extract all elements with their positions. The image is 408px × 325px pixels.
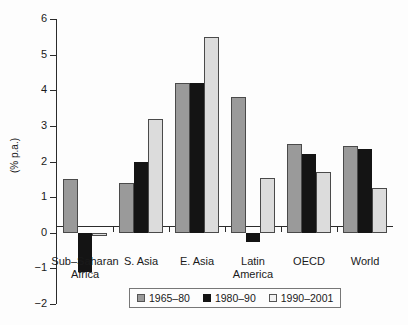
legend-swatch-black-icon	[203, 294, 211, 302]
x-tick	[281, 226, 282, 232]
bar-chart: (% p.a.) 6543210−1−2 Sub–SaharanAfricaS.…	[0, 0, 408, 325]
legend-swatch-white-icon	[269, 294, 277, 302]
bar-5-2	[372, 188, 387, 233]
legend-label-1: 1980–90	[215, 292, 256, 304]
y-tick-label: 3	[41, 119, 47, 132]
legend-label-2: 1990–2001	[281, 292, 334, 304]
bar-3-1	[246, 233, 261, 242]
x-tick	[113, 226, 114, 232]
x-tick	[225, 226, 226, 232]
bar-4-2	[316, 172, 331, 233]
category-label-line: America	[211, 268, 295, 281]
y-tick: −2	[50, 304, 56, 305]
bar-1-2	[148, 119, 163, 233]
bar-3-0	[231, 97, 246, 232]
y-tick: 0	[50, 233, 56, 234]
legend-swatch-gray-icon	[137, 294, 145, 302]
y-tick-label: 1	[41, 190, 47, 203]
bar-2-1	[190, 83, 205, 233]
y-axis-title: (% p.a.)	[9, 111, 20, 201]
y-tick-label: −2	[34, 297, 47, 310]
bar-4-1	[302, 154, 317, 232]
y-tick: 2	[50, 162, 56, 163]
bar-2-0	[175, 83, 190, 233]
bar-1-0	[119, 183, 134, 233]
bar-0-2	[92, 233, 107, 237]
legend-item-1[interactable]: 1980–90	[203, 292, 256, 304]
y-tick-label: 4	[41, 83, 47, 96]
category-label-line: World	[323, 255, 407, 268]
chart-legend: 1965–80 1980–90 1990–2001	[129, 288, 341, 308]
y-tick: 3	[50, 126, 56, 127]
y-tick-label: 2	[41, 155, 47, 168]
bar-2-2	[204, 37, 219, 233]
y-tick-label: 0	[41, 226, 47, 239]
bar-4-0	[287, 144, 302, 233]
y-tick: 4	[50, 90, 56, 91]
y-tick: 5	[50, 55, 56, 56]
bar-0-0	[63, 179, 78, 232]
bar-3-2	[260, 178, 275, 233]
x-tick	[169, 226, 170, 232]
legend-item-0[interactable]: 1965–80	[137, 292, 190, 304]
legend-item-2[interactable]: 1990–2001	[269, 292, 334, 304]
y-tick-label: 5	[41, 48, 47, 61]
bar-1-1	[134, 162, 149, 233]
category-label-5: World	[323, 255, 407, 268]
bar-5-1	[358, 149, 373, 233]
y-tick-label: 6	[41, 12, 47, 25]
category-label-line: Africa	[43, 268, 127, 281]
y-tick: 6	[50, 19, 56, 20]
x-tick	[337, 226, 338, 232]
y-tick: 1	[50, 197, 56, 198]
legend-label-0: 1965–80	[149, 292, 190, 304]
bar-5-0	[343, 146, 358, 233]
